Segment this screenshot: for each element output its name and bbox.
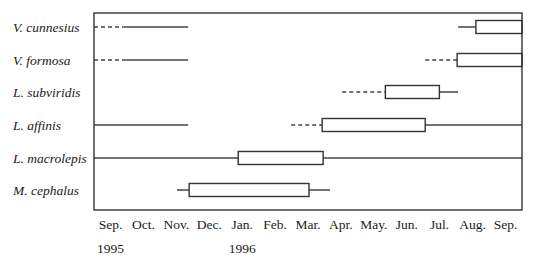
range-box bbox=[457, 54, 522, 67]
month-tick-label: May. bbox=[360, 217, 387, 232]
month-tick-label: Jun. bbox=[396, 217, 418, 232]
month-tick-label: Oct. bbox=[132, 217, 155, 232]
species-labels: V. cunnesiusV. formosaL. subviridisL. af… bbox=[12, 20, 87, 198]
month-tick-label: Aug. bbox=[459, 217, 486, 232]
year-labels: 19951996 bbox=[97, 241, 256, 256]
species-row bbox=[177, 184, 330, 197]
species-label: M. cephalus bbox=[12, 183, 79, 198]
species-label: V. cunnesius bbox=[13, 20, 80, 35]
species-row bbox=[342, 86, 458, 99]
year-label: 1996 bbox=[229, 241, 256, 256]
month-tick-label: Nov. bbox=[163, 217, 189, 232]
species-row bbox=[94, 54, 522, 67]
species-row bbox=[94, 119, 522, 132]
species-row bbox=[94, 152, 522, 165]
month-tick-labels: Sep.Oct.Nov.Dec.Jan.Feb.Mar.Apr.May.Jun.… bbox=[99, 217, 518, 232]
range-box bbox=[385, 86, 439, 99]
range-box bbox=[322, 119, 425, 132]
chart-marks bbox=[94, 21, 522, 197]
species-label: L. macrolepis bbox=[12, 151, 87, 166]
range-box bbox=[476, 21, 522, 34]
range-box bbox=[238, 152, 323, 165]
month-tick-label: Apr. bbox=[329, 217, 353, 232]
species-row bbox=[94, 21, 522, 34]
year-label: 1995 bbox=[97, 241, 124, 256]
range-box bbox=[189, 184, 309, 197]
month-tick-label: Dec. bbox=[197, 217, 222, 232]
month-tick-label: Jul. bbox=[430, 217, 449, 232]
occurrence-chart: V. cunnesiusV. formosaL. subviridisL. af… bbox=[0, 0, 533, 268]
species-label: L. subviridis bbox=[12, 85, 81, 100]
month-tick-label: Feb. bbox=[263, 217, 287, 232]
month-tick-label: Sep. bbox=[99, 217, 123, 232]
species-label: L. affinis bbox=[12, 118, 61, 133]
month-tick-label: Sep. bbox=[494, 217, 518, 232]
month-tick-label: Jan. bbox=[231, 217, 252, 232]
plot-frame bbox=[94, 13, 522, 210]
species-label: V. formosa bbox=[13, 53, 71, 68]
month-tick-label: Mar. bbox=[295, 217, 320, 232]
